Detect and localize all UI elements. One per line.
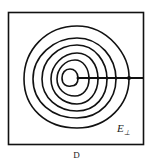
contour-diagram <box>0 0 153 167</box>
field-label: E⊥ <box>117 122 130 137</box>
caption: D <box>0 150 153 160</box>
